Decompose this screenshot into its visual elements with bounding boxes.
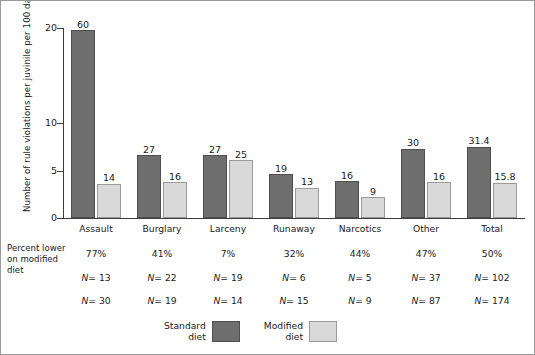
bar-runaway-modified: 13 [295, 188, 319, 218]
annotation-cell-n-modified: N= 14 [195, 295, 261, 306]
bar-value-label: 27 [209, 145, 221, 155]
annotation-cell-n-standard: N= 5 [327, 272, 393, 283]
y-axis-tick: 0 [1, 218, 57, 219]
annotation-n-symbol: N [474, 295, 481, 306]
annotation-n-symbol: N [213, 272, 220, 283]
x-axis-label-narcotics: Narcotics [327, 223, 393, 234]
annotation-cell-n-standard: N= 6 [261, 272, 327, 283]
bar-value-label: 16 [433, 172, 445, 182]
x-axis-line [63, 218, 525, 219]
bar-burglary-standard: 27 [137, 155, 161, 218]
annotation-n-symbol: N [474, 272, 481, 283]
y-axis-title: Number of rule violations per juvinile p… [22, 12, 32, 212]
bar-larceny-standard: 27 [203, 155, 227, 218]
bar-total-modified: 15.8 [493, 183, 517, 218]
annotation-title-line: on modified [7, 254, 71, 265]
bar-assault-modified: 14 [97, 184, 121, 218]
annotation-cell-percent-lower: 7% [195, 248, 261, 259]
bar-value-label: 9 [370, 187, 376, 197]
annotation-n-symbol: N [213, 295, 220, 306]
bar-value-label: 14 [103, 173, 115, 183]
y-axis-tick-mark [57, 218, 63, 219]
bar-value-label: 30 [407, 138, 419, 148]
bar-value-label: 60 [77, 20, 89, 30]
bar-other-modified: 16 [427, 182, 451, 218]
annotation-n-symbol: N [81, 295, 88, 306]
bar-larceny-modified: 25 [229, 160, 253, 218]
bar-other-standard: 30 [401, 149, 425, 218]
annotation-n-symbol: N [147, 295, 154, 306]
annotation-cell-n-standard: N= 13 [63, 272, 129, 283]
bar-total-standard: 31.4 [467, 147, 491, 218]
bar-value-label: 31.4 [468, 136, 489, 146]
annotation-n-symbol: N [411, 272, 418, 283]
legend-item-standard-diet[interactable]: Standard diet [164, 321, 240, 342]
bar-value-label: 15.8 [494, 172, 515, 182]
annotation-cell-n-modified: N= 174 [459, 295, 525, 306]
legend-swatch [309, 321, 337, 342]
x-axis-label-total: Total [459, 223, 525, 234]
annotation-n-symbol: N [81, 272, 88, 283]
annotation-row-title: Percent loweron modifieddiet [7, 243, 71, 276]
bar-narcotics-modified: 9 [361, 197, 385, 218]
annotation-n-symbol: N [282, 272, 289, 283]
bar-value-label: 16 [169, 172, 181, 182]
annotation-n-symbol: N [279, 295, 286, 306]
annotation-cell-n-modified: N= 15 [261, 295, 327, 306]
y-axis-tick-label: 0 [11, 213, 57, 223]
chart-figure: 051020 Number of rule violations per juv… [0, 0, 535, 355]
annotation-title-line: Percent lower [7, 243, 71, 254]
annotation-cell-percent-lower: 50% [459, 248, 525, 259]
x-axis-label-burglary: Burglary [129, 223, 195, 234]
y-axis-tick-label: 20 [11, 23, 57, 33]
annotation-cell-percent-lower: 77% [63, 248, 129, 259]
annotation-cell-percent-lower: 47% [393, 248, 459, 259]
annotation-n-symbol: N [147, 272, 154, 283]
chart-legend: Standard dietModified diet [164, 321, 337, 342]
y-axis-tick-label: 5 [11, 166, 57, 176]
bar-assault-standard: 60 [71, 30, 95, 218]
annotation-cell-n-modified: N= 19 [129, 295, 195, 306]
annotation-cell-n-modified: N= 9 [327, 295, 393, 306]
annotation-cell-percent-lower: 44% [327, 248, 393, 259]
x-axis-label-larceny: Larceny [195, 223, 261, 234]
annotation-cell-n-standard: N= 37 [393, 272, 459, 283]
annotation-n-symbol: N [348, 295, 355, 306]
annotation-cell-n-modified: N= 30 [63, 295, 129, 306]
annotation-cell-n-standard: N= 102 [459, 272, 525, 283]
bar-narcotics-standard: 16 [335, 181, 359, 218]
bar-value-label: 13 [301, 177, 313, 187]
bar-value-label: 16 [341, 171, 353, 181]
bar-runaway-standard: 19 [269, 174, 293, 218]
annotation-cell-percent-lower: 32% [261, 248, 327, 259]
annotation-cell-n-standard: N= 22 [129, 272, 195, 283]
annotation-n-symbol: N [411, 295, 418, 306]
annotation-n-symbol: N [348, 272, 355, 283]
y-axis-tick-label: 10 [11, 118, 57, 128]
bar-burglary-modified: 16 [163, 182, 187, 218]
annotation-title-line: diet [7, 265, 71, 276]
legend-item-modified-diet[interactable]: Modified diet [264, 321, 337, 342]
x-axis-label-other: Other [393, 223, 459, 234]
x-axis-label-assault: Assault [63, 223, 129, 234]
annotation-cell-percent-lower: 41% [129, 248, 195, 259]
annotation-cell-n-modified: N= 87 [393, 295, 459, 306]
bar-value-label: 27 [143, 145, 155, 155]
annotation-cell-n-standard: N= 19 [195, 272, 261, 283]
legend-label: Modified diet [264, 321, 303, 342]
legend-swatch [212, 321, 240, 342]
bar-value-label: 19 [275, 164, 287, 174]
bar-value-label: 25 [235, 150, 247, 160]
x-axis-label-runaway: Runaway [261, 223, 327, 234]
legend-label: Standard diet [164, 321, 206, 342]
plot-area: 6014271627251913169301631.415.8 [63, 19, 525, 218]
